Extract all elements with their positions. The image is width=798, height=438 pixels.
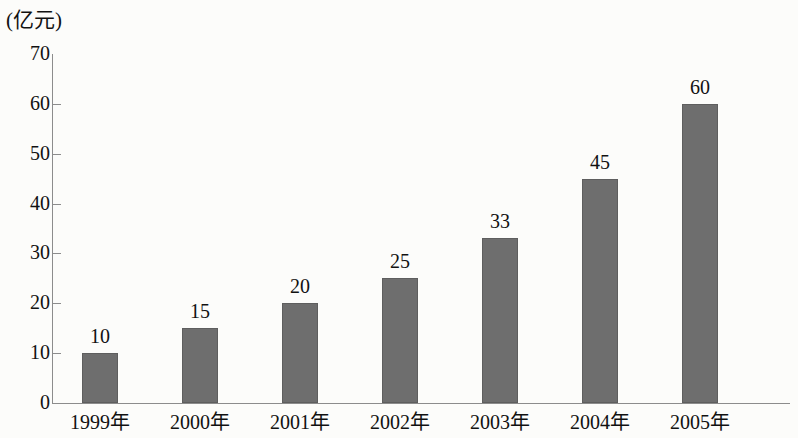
bar-value-label: 33 bbox=[450, 210, 550, 232]
bar bbox=[282, 303, 318, 403]
x-axis-line bbox=[52, 403, 790, 404]
y-axis-tick-label: 70 bbox=[30, 41, 50, 65]
bar-group: 60 bbox=[650, 43, 750, 403]
y-axis-tick-label: 60 bbox=[30, 91, 50, 115]
bar bbox=[182, 328, 218, 403]
bar bbox=[82, 353, 118, 403]
y-axis-tick-label: 50 bbox=[30, 141, 50, 165]
x-axis-category-label: 2001年 bbox=[245, 409, 355, 435]
bar-value-label: 60 bbox=[650, 76, 750, 98]
bar bbox=[482, 238, 518, 403]
y-axis-tick-label: 30 bbox=[30, 240, 50, 264]
bar-value-label: 25 bbox=[350, 250, 450, 272]
bar-group: 33 bbox=[450, 43, 550, 403]
x-axis-category-label: 1999年 bbox=[45, 409, 155, 435]
y-axis-unit-caption: (亿元) bbox=[6, 7, 62, 33]
x-axis-category-label: 2000年 bbox=[145, 409, 255, 435]
bar-value-label: 10 bbox=[50, 325, 150, 347]
bar-value-label: 45 bbox=[550, 151, 650, 173]
bar bbox=[582, 179, 618, 403]
bar-group: 25 bbox=[350, 43, 450, 403]
x-axis-category-label: 2005年 bbox=[645, 409, 755, 435]
bar-value-label: 15 bbox=[150, 300, 250, 322]
y-axis-tick-label: 10 bbox=[30, 340, 50, 364]
x-axis-category-label: 2004年 bbox=[545, 409, 655, 435]
bar-group: 10 bbox=[50, 43, 150, 403]
bar-group: 45 bbox=[550, 43, 650, 403]
bar bbox=[682, 104, 718, 403]
bar-group: 20 bbox=[250, 43, 350, 403]
y-axis-tick-label: 40 bbox=[30, 191, 50, 215]
y-axis-tick-label: 20 bbox=[30, 290, 50, 314]
x-axis-category-label: 2002年 bbox=[345, 409, 455, 435]
x-axis-category-label: 2003年 bbox=[445, 409, 555, 435]
bar-group: 15 bbox=[150, 43, 250, 403]
bar-value-label: 20 bbox=[250, 275, 350, 297]
bar bbox=[382, 278, 418, 403]
bar-chart: (亿元) 010203040506070 10152025334560 1999… bbox=[0, 0, 798, 438]
